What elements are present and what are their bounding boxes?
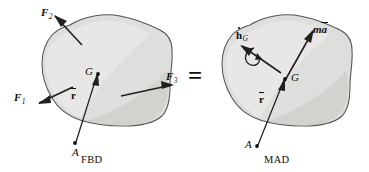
mechanics-figure: F1 F2 F3 G r A FBD = hG ma G r A MAD (0, 0, 369, 172)
fbd-body-group (42, 15, 172, 126)
mad-inertia-force-label: ma (313, 24, 327, 35)
mad-mass-symbol: m (313, 23, 322, 35)
fbd-force-1-symbol: F (14, 91, 21, 103)
fbd-force-2-subscript: 2 (49, 12, 53, 21)
fbd-point-g-label: G (85, 66, 93, 77)
fbd-force-1-subscript: 1 (22, 97, 26, 106)
fbd-force-2-symbol: F (41, 6, 48, 18)
mad-position-vector-symbol: r (259, 94, 264, 105)
fbd-force-2-label: F2 (41, 7, 52, 18)
fbd-point-a-dot (73, 141, 77, 145)
mad-caption: MAD (264, 155, 289, 166)
fbd-force-3-subscript: 3 (174, 76, 178, 85)
mad-point-a-dot (255, 144, 259, 148)
mad-point-a-label: A (245, 139, 252, 150)
fbd-force-3-label: F3 (166, 71, 177, 82)
mad-point-g-dot (283, 77, 287, 81)
mad-angular-momentum-label: hG (236, 30, 248, 41)
mad-acceleration-symbol: a (322, 24, 328, 35)
fbd-force-3-symbol: F (166, 70, 173, 82)
fbd-force-1-label: F1 (14, 92, 25, 103)
fbd-point-a-label: A (72, 147, 79, 158)
mad-point-g-label: G (291, 72, 299, 83)
fbd-position-vector-label: r (71, 90, 76, 101)
fbd-caption: FBD (81, 155, 102, 166)
mad-angular-momentum-subscript: G (242, 34, 247, 43)
fbd-point-g-dot (96, 72, 100, 76)
mad-position-vector-label: r (259, 94, 264, 105)
fbd-position-vector-symbol: r (71, 90, 76, 101)
equals-sign: = (188, 63, 202, 88)
